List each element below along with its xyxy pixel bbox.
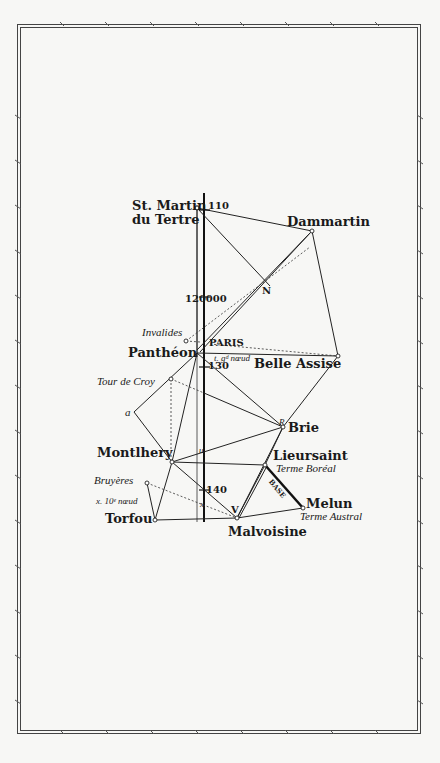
point-label-r: R [279, 418, 285, 427]
station-label-pantheon: Panthéon [128, 346, 197, 359]
point-label-x: x [200, 500, 204, 509]
point-label-u: u [199, 446, 204, 455]
station-label-brie: Brie [288, 421, 319, 434]
triangulation-diagram [0, 0, 440, 763]
station-label-malvoisine: Malvoisine [228, 525, 307, 538]
station-label-montlhery: Montlhery [97, 446, 173, 459]
tenth-node-label: x. 10ᵉ nœud [96, 497, 138, 506]
station-label-belle-assise: Belle Assise [254, 357, 341, 370]
point-label-a: a [125, 407, 131, 418]
point-label-v: V [231, 505, 239, 515]
meridian-mark-140: 140 [206, 485, 227, 495]
station-label-melun: Melun [306, 497, 353, 510]
border-ticks [15, 22, 423, 734]
station-label-torfou: Torfou [105, 512, 152, 525]
meridian-mark-130: 130 [208, 361, 229, 371]
terme-austral-label: Terme Austral [300, 511, 362, 522]
station-label-lieursaint: Lieursaint [273, 449, 348, 462]
station-label-bruyeres: Bruyères [94, 475, 133, 486]
station-label-dammartin: Dammartin [287, 215, 370, 228]
station-label-paris: PARIS [209, 338, 244, 348]
station-label-tour-de-croy: Tour de Croy [97, 376, 155, 387]
meridian-mark-120000: 120000 [185, 294, 227, 304]
station-label-du-tertre: du Tertre [132, 213, 200, 226]
station-label-invalides: Invalides [142, 327, 182, 338]
point-label-n: N [262, 286, 271, 296]
station-label-st-martin: St. Martin [132, 199, 207, 212]
dashed-sightlines [147, 247, 338, 518]
terme-boreal-label: Terme Boréal [276, 463, 336, 474]
meridian-mark-110: 110 [208, 201, 229, 211]
